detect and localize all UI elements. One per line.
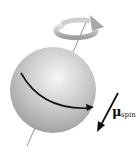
spin-diagram-svg (0, 0, 140, 157)
mu-subscript: spin (121, 111, 136, 119)
sphere (10, 47, 96, 133)
rotation-ring-icon (56, 15, 104, 38)
rotation-axis-bottom (27, 128, 35, 146)
spin-diagram: μ spin (0, 0, 140, 157)
